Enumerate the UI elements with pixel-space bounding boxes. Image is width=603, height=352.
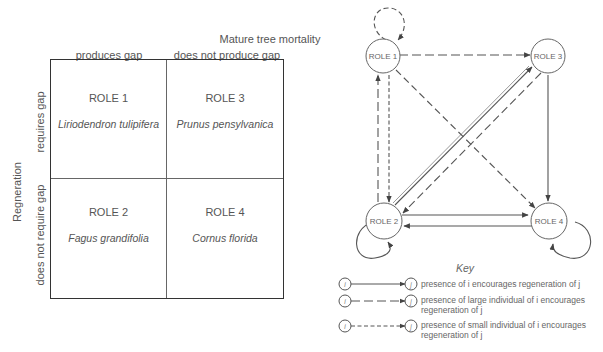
key-symbol-solid	[339, 278, 417, 290]
key-text-small-dashed: presence of small individual of i encour…	[421, 320, 596, 340]
node-role-4: ROLE 4	[531, 203, 567, 239]
svg-text:ROLE 4: ROLE 4	[535, 217, 564, 226]
key-symbol-large-dashed	[339, 295, 417, 307]
edge-role1-self	[374, 8, 404, 40]
svg-text:ROLE 1: ROLE 1	[369, 52, 398, 61]
key-text-solid: presence of i encourages regeneration of…	[421, 279, 601, 289]
key-title: Key	[456, 262, 474, 274]
edge-role1-role4	[396, 70, 535, 208]
key-text-large-dashed: presence of large individual of i encour…	[421, 295, 591, 315]
node-role-2: ROLE 2	[366, 203, 402, 239]
node-role-3: ROLE 3	[531, 39, 565, 73]
edge-role2-role3	[395, 67, 532, 205]
key-symbol-small-dashed	[339, 320, 417, 332]
edge-role3-role2	[403, 73, 541, 213]
node-role-1: ROLE 1	[366, 39, 400, 73]
svg-text:ROLE 2: ROLE 2	[370, 217, 399, 226]
svg-text:ROLE 3: ROLE 3	[534, 52, 563, 61]
